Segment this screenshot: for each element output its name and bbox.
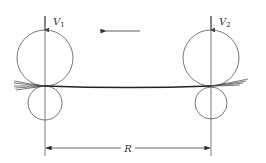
rolling-mill-diagram: V1 V2: [0, 0, 266, 163]
stand-1-strip-fan: [14, 81, 45, 90]
stand-1-velocity-label: V1: [53, 16, 65, 29]
diagram-svg: V1 V2: [0, 0, 266, 163]
strip: [45, 86, 211, 88]
dimension-r: R: [46, 143, 210, 154]
stand-2-strip-fan: [211, 79, 248, 86]
stand-2-velocity-label: V2: [219, 16, 231, 29]
dimension-label: R: [123, 143, 132, 154]
